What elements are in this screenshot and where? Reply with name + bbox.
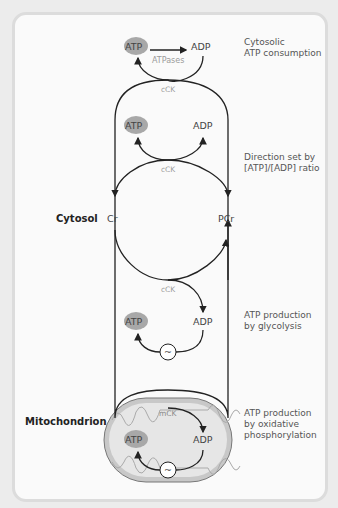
note-oxphos: ATP production by oxidative phosphorylat… — [244, 408, 317, 441]
tilde-glycolysis: ~ — [164, 346, 172, 357]
note-line: ATP production — [244, 408, 317, 419]
note-line: ATP consumption — [244, 48, 322, 59]
mitochondrion-label: Mitochondrion — [25, 416, 107, 427]
note-line: ATP production — [244, 310, 312, 321]
note-line: by glycolysis — [244, 321, 312, 332]
adp-label-3: ADP — [193, 316, 213, 327]
atp-label-3: ATP — [125, 316, 142, 327]
cr-label: Cr — [107, 213, 118, 224]
atp-label-top: ATP — [125, 41, 142, 52]
mck-label: mCK — [159, 408, 176, 419]
note-line: Cytosolic — [244, 37, 322, 48]
note-line: by oxidative — [244, 419, 317, 430]
cytosol-label: Cytosol — [56, 213, 98, 224]
note-line: [ATP]/[ADP] ratio — [244, 163, 320, 174]
cck-label-1: cCK — [161, 84, 175, 95]
adp-label-top: ADP — [191, 41, 211, 52]
atpases-label: ATPases — [152, 55, 184, 66]
cck-label-2: cCK — [161, 164, 175, 175]
note-consumption: Cytosolic ATP consumption — [244, 37, 322, 59]
adp-label-mito: ADP — [193, 434, 213, 445]
tilde-mito: ~ — [164, 464, 172, 475]
note-line: phosphorylation — [244, 430, 317, 441]
pcr-label: PCr — [218, 213, 234, 224]
atp-label-2: ATP — [125, 120, 142, 131]
note-line: Direction set by — [244, 152, 320, 163]
atp-label-mito: ATP — [125, 434, 142, 445]
note-direction: Direction set by [ATP]/[ADP] ratio — [244, 152, 320, 174]
note-glycolysis: ATP production by glycolysis — [244, 310, 312, 332]
cck-label-3: cCK — [161, 284, 175, 295]
adp-label-2: ADP — [193, 120, 213, 131]
